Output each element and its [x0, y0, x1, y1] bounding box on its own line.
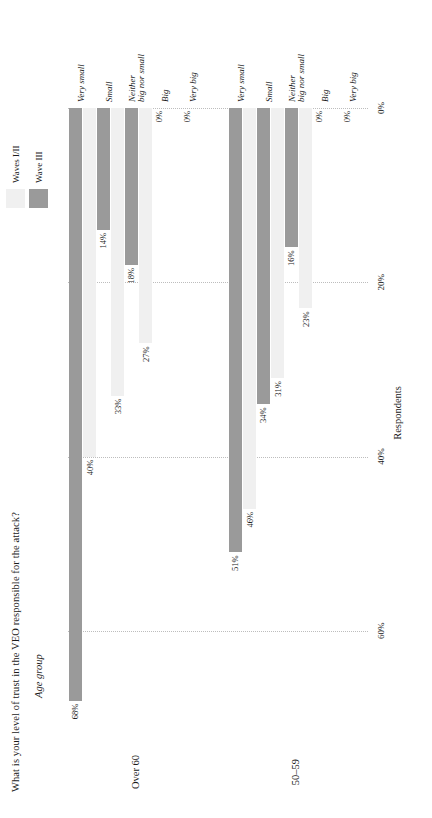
legend-label-wave-iii: Wave III — [34, 151, 44, 183]
bar-value-label-wave-iii: 34% — [258, 407, 268, 423]
value-axis-title: Respondents — [392, 108, 403, 718]
chart-figure: What is your level of trust in the VEO r… — [0, 0, 432, 818]
rotated-figure-wrapper: What is your level of trust in the VEO r… — [0, 0, 432, 818]
bar-value-label-wave-iii: 14% — [98, 233, 108, 249]
panel-50-59: 46%51%31%34%23%16%0%0% — [228, 108, 368, 718]
panel-label-over-60: Over 60 — [130, 726, 141, 818]
bar-value-label-wave-iii: 0% — [182, 111, 192, 122]
chart-title: What is your level of trust in the VEO r… — [10, 512, 21, 792]
bar-group: 0% — [312, 108, 340, 718]
axis-tick-40: 40% — [376, 447, 386, 467]
category-label-line: Small — [105, 24, 114, 102]
bar-wave-iii — [97, 108, 110, 230]
category-label-line: Small — [265, 24, 274, 102]
bar-value-label-wave-iii: 68% — [70, 704, 80, 720]
chart-subtitle: Age group — [33, 654, 44, 698]
legend-swatch-waves-i-ii — [6, 189, 25, 208]
legend-label-waves-i-ii: Waves I/II — [11, 145, 21, 183]
bar-wave-iii — [257, 108, 270, 404]
category-label-line: Very small — [237, 24, 246, 102]
bar-value-label-waves-i-ii: 46% — [245, 512, 255, 528]
bar-value-label-waves-i-ii: 31% — [273, 381, 283, 397]
bar-group: 31%34% — [256, 108, 284, 718]
category-label-big: Big — [321, 24, 330, 102]
panel-over-60: 40%68%33%14%27%18%0%0% — [68, 108, 208, 718]
bar-group: 0% — [152, 108, 180, 718]
bar-waves-i-ii — [83, 108, 96, 457]
category-label-small: Small — [265, 24, 274, 102]
axis-tick-20: 20% — [376, 272, 386, 292]
bar-value-label-waves-i-ii: 33% — [113, 399, 123, 415]
bar-group: 40%68% — [68, 108, 96, 718]
category-label-very-small: Very small — [77, 24, 86, 102]
category-label-line: Very big — [189, 24, 198, 102]
category-label-line: Very small — [77, 24, 86, 102]
category-label-line: Big — [161, 24, 170, 102]
chart-legend: Waves I/IIWave III — [6, 88, 56, 208]
bar-value-label-wave-iii: 0% — [342, 111, 352, 122]
bar-value-label-wave-iii: 18% — [126, 268, 136, 284]
bar-wave-iii — [285, 108, 298, 247]
category-label-line: Very big — [349, 24, 358, 102]
bar-waves-i-ii — [139, 108, 152, 343]
axis-tick-0: 0% — [376, 98, 386, 118]
bar-wave-iii — [69, 108, 82, 701]
bar-value-label-wave-iii: 0% — [314, 111, 324, 122]
plot-area: 40%68%33%14%27%18%0%0%46%51%31%34%23%16%… — [68, 108, 368, 718]
bar-waves-i-ii — [243, 108, 256, 509]
category-label-big: Big — [161, 24, 170, 102]
bar-wave-iii — [125, 108, 138, 265]
bar-wave-iii — [229, 108, 242, 552]
bar-value-label-wave-iii: 16% — [286, 250, 296, 266]
bar-waves-i-ii — [299, 108, 312, 308]
category-label-very-big: Very big — [349, 24, 358, 102]
category-label-very-small: Very small — [237, 24, 246, 102]
bar-group: 27%18% — [124, 108, 152, 718]
category-label-line: big nor small — [297, 24, 306, 102]
panel-label-50-59: 50–59 — [290, 726, 301, 818]
bar-group: 0% — [340, 108, 368, 718]
category-label-line: big nor small — [137, 24, 146, 102]
bar-value-label-waves-i-ii: 27% — [141, 346, 151, 362]
category-label-small: Small — [105, 24, 114, 102]
bar-waves-i-ii — [111, 108, 124, 396]
bar-value-label-waves-i-ii: 40% — [85, 460, 95, 476]
axis-tick-60: 60% — [376, 621, 386, 641]
bar-group: 46%51% — [228, 108, 256, 718]
bar-group: 23%16% — [284, 108, 312, 718]
category-label-very-big: Very big — [189, 24, 198, 102]
category-label-neither-big-nor-small: Neitherbig nor small — [288, 24, 307, 102]
bar-waves-i-ii — [271, 108, 284, 378]
bar-group: 33%14% — [96, 108, 124, 718]
category-label-line: Big — [321, 24, 330, 102]
bar-group: 0% — [180, 108, 208, 718]
legend-swatch-wave-iii — [29, 189, 48, 208]
category-label-neither-big-nor-small: Neitherbig nor small — [128, 24, 147, 102]
bar-value-label-wave-iii: 51% — [230, 555, 240, 571]
bar-value-label-wave-iii: 0% — [154, 111, 164, 122]
bar-value-label-waves-i-ii: 23% — [301, 311, 311, 327]
